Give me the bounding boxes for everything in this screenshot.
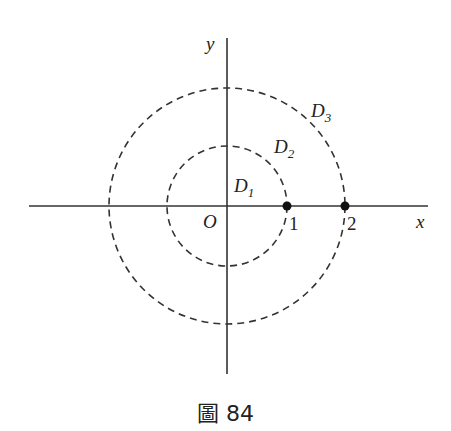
tick-label-2: 2 <box>347 213 357 234</box>
region-label-d1: D1 <box>233 175 254 200</box>
y-axis-label: y <box>204 33 215 54</box>
point-2-0 <box>341 202 350 211</box>
point-1-0 <box>283 202 292 211</box>
region-label-d2: D2 <box>273 136 295 161</box>
figure-caption: 圖 84 <box>0 395 451 427</box>
origin-label: O <box>203 211 217 232</box>
x-axis-label: x <box>415 211 425 232</box>
tick-label-1: 1 <box>289 213 299 234</box>
region-label-d3: D3 <box>310 100 332 125</box>
figure-diagram: y x O 1 2 D1 D2 D3 <box>0 0 451 431</box>
